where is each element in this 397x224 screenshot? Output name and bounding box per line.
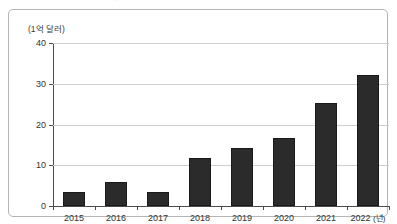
- gridline: 30: [53, 84, 389, 85]
- bar: [231, 148, 253, 206]
- x-tick-mark: [137, 206, 138, 210]
- x-tick-mark: [221, 206, 222, 210]
- chart-page: ㅣ 글ㅣ 보ㅣ 방ㅣ 산ㅣ 시ㅣ 장ㅣ 규ㅣ 모ㅣ 추ㅣ 이ㅣ (1억 달러) …: [0, 0, 397, 224]
- y-tick-label: 10: [36, 161, 46, 170]
- x-tick-mark: [263, 206, 264, 210]
- plot-area: 010203040 201520162017201820192020202120…: [53, 43, 389, 206]
- y-tick-label: 20: [36, 120, 46, 129]
- x-tick-label: 2018: [190, 213, 210, 223]
- x-tick-mark: [389, 206, 390, 210]
- bar: [273, 138, 295, 206]
- bar: [315, 103, 337, 206]
- y-tick-mark: [49, 165, 53, 166]
- y-tick-label: 0: [41, 202, 46, 211]
- gridline: 20: [53, 125, 389, 126]
- x-tick-mark: [347, 206, 348, 210]
- cut-off-caption: ㅣ 글ㅣ 보ㅣ 방ㅣ 산ㅣ 시ㅣ 장ㅣ 규ㅣ 모ㅣ 추ㅣ 이ㅣ: [0, 0, 397, 8]
- gridline: 10: [53, 165, 389, 166]
- x-tick-mark: [53, 206, 54, 210]
- x-tick-label: 2016: [106, 213, 126, 223]
- x-tick-label: 2021: [316, 213, 336, 223]
- y-axis-unit-label: (1억 달러): [28, 24, 65, 34]
- x-tick-mark: [179, 206, 180, 210]
- bar: [105, 182, 127, 206]
- y-tick-mark: [49, 84, 53, 85]
- chart-frame: (1억 달러) 010203040 2015201620172018201920…: [8, 9, 388, 217]
- bar: [147, 192, 169, 206]
- y-tick-label: 30: [36, 79, 46, 88]
- x-tick-label: 2020: [274, 213, 294, 223]
- y-tick-label: 40: [36, 39, 46, 48]
- y-tick-mark: [49, 43, 53, 44]
- x-tick-label: 2019: [232, 213, 252, 223]
- y-tick-mark: [49, 125, 53, 126]
- x-tick-mark: [305, 206, 306, 210]
- x-tick-label: 2015: [64, 213, 84, 223]
- x-tick-label: 2022 (년): [351, 213, 386, 224]
- cut-off-caption-text: ㅣ 글ㅣ 보ㅣ 방ㅣ 산ㅣ 시ㅣ 장ㅣ 규ㅣ 모ㅣ 추ㅣ 이ㅣ: [4, 0, 397, 1]
- gridline: 40: [53, 43, 389, 44]
- x-tick-mark: [95, 206, 96, 210]
- bar: [189, 158, 211, 206]
- x-axis-unit-label: (년): [373, 214, 385, 223]
- bar: [63, 192, 85, 206]
- bar: [357, 75, 379, 206]
- x-tick-label: 2017: [148, 213, 168, 223]
